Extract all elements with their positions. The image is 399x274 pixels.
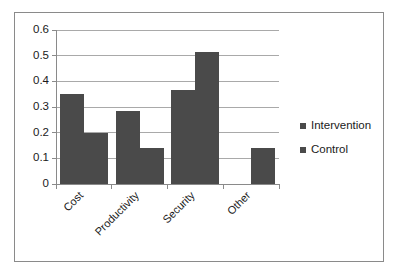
legend-square-marker-intervention bbox=[300, 123, 306, 129]
bar-productivity-control bbox=[140, 148, 164, 184]
bar-security-intervention bbox=[171, 90, 195, 184]
y-tick-label: 0.5 bbox=[33, 49, 49, 61]
x-axis-tick-labels: CostProductivitySecurityOther bbox=[61, 189, 253, 238]
legend-label-control: Control bbox=[311, 143, 348, 155]
y-tick-label: 0.2 bbox=[33, 126, 49, 138]
y-tick-label: 0 bbox=[43, 177, 49, 189]
y-tick-label: 0.1 bbox=[33, 151, 49, 163]
x-tick-label-other: Other bbox=[225, 189, 253, 217]
y-axis-tick-labels: 00.10.20.30.40.50.6 bbox=[33, 23, 50, 189]
bar-productivity-intervention bbox=[116, 111, 140, 184]
x-tick-label-security: Security bbox=[160, 189, 197, 226]
bar-cost-intervention bbox=[60, 94, 84, 184]
bar-chart: 00.10.20.30.40.50.6 CostProductivitySecu… bbox=[15, 13, 383, 261]
y-tick-label: 0.4 bbox=[33, 74, 50, 86]
y-tick-label: 0.3 bbox=[33, 100, 49, 112]
chart-frame: 00.10.20.30.40.50.6 CostProductivitySecu… bbox=[14, 12, 384, 262]
bar-other-control bbox=[251, 148, 275, 184]
x-tick-label-productivity: Productivity bbox=[92, 189, 141, 238]
legend-square-marker-control bbox=[300, 147, 306, 153]
bar-security-control bbox=[195, 52, 219, 184]
legend-label-intervention: Intervention bbox=[311, 119, 371, 131]
chart-legend: InterventionControl bbox=[300, 119, 371, 155]
y-tick-label: 0.6 bbox=[33, 23, 49, 35]
bar-cost-control bbox=[84, 133, 108, 184]
bars-group bbox=[60, 52, 275, 184]
x-tick-label-cost: Cost bbox=[61, 189, 85, 213]
